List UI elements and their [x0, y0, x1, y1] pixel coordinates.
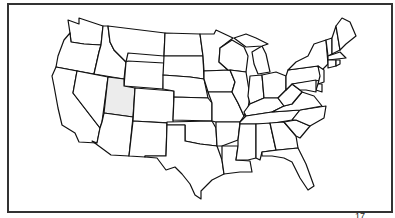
state-florida[interactable]	[262, 148, 314, 190]
state-washington[interactable]	[68, 18, 103, 45]
state-maine[interactable]	[336, 18, 356, 50]
partial-page-number: 17	[355, 212, 365, 218]
state-colorado[interactable]	[133, 88, 174, 123]
state-iowa[interactable]	[204, 70, 235, 92]
state-delaware[interactable]	[316, 84, 322, 92]
us-map	[0, 0, 395, 218]
state-kansas[interactable]	[173, 97, 212, 121]
state-mississippi[interactable]	[236, 124, 256, 160]
state-new-york[interactable]	[288, 40, 328, 70]
state-arkansas[interactable]	[216, 122, 240, 146]
state-connecticut[interactable]	[328, 60, 336, 68]
state-michigan-lower[interactable]	[252, 46, 270, 74]
state-rhode-island[interactable]	[336, 60, 340, 66]
state-wyoming[interactable]	[124, 61, 164, 89]
state-north-dakota[interactable]	[164, 33, 203, 56]
state-new-mexico[interactable]	[129, 121, 167, 157]
